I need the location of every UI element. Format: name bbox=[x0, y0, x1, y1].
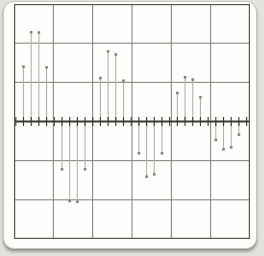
stem-dot bbox=[199, 96, 202, 99]
stem-dot bbox=[153, 173, 156, 176]
stem-dot bbox=[84, 168, 87, 171]
stem-dot bbox=[215, 139, 218, 142]
stem-dot bbox=[184, 76, 187, 79]
stem-dot bbox=[115, 53, 118, 56]
stem-plot bbox=[14, 4, 250, 239]
stem-dot bbox=[122, 79, 125, 82]
stem-dot bbox=[99, 77, 102, 80]
stem-dot bbox=[61, 168, 64, 171]
stem-dot bbox=[191, 78, 194, 81]
page-background bbox=[0, 0, 264, 256]
stem-dot bbox=[107, 50, 110, 53]
stem-dot bbox=[238, 134, 241, 137]
stem-dot bbox=[68, 200, 71, 203]
stem-dot bbox=[145, 175, 148, 178]
stem-dot bbox=[161, 152, 164, 155]
stem-dot bbox=[176, 92, 179, 95]
stem-dot bbox=[22, 65, 25, 68]
stem-dot bbox=[45, 66, 48, 69]
stem-dot bbox=[230, 146, 233, 149]
stem-dot bbox=[138, 152, 141, 155]
stem-dot bbox=[222, 148, 225, 151]
stem-dot bbox=[38, 31, 41, 34]
stem-dot bbox=[30, 31, 33, 34]
plot-canvas bbox=[14, 4, 250, 239]
stem-dot bbox=[76, 200, 79, 203]
